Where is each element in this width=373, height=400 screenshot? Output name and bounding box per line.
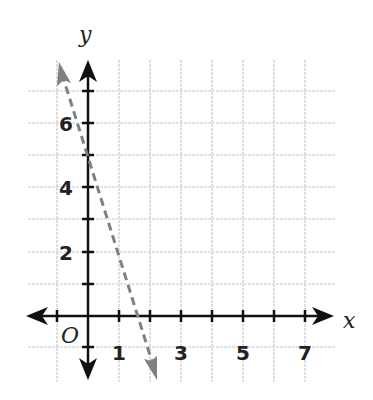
x-tick-label-7: 7 <box>298 341 312 365</box>
x-axis-label: x <box>343 308 356 333</box>
y-axis-label: y <box>78 22 92 47</box>
line-top-arrow-icon <box>57 62 71 86</box>
x-tick-label-5: 5 <box>236 341 250 365</box>
y-tick-label-6: 6 <box>59 112 73 136</box>
x-axis <box>36 310 326 322</box>
y-axis <box>82 68 94 372</box>
origin-label: O <box>61 323 79 348</box>
coordinate-plane: y x O 1 3 5 7 2 4 6 <box>0 0 373 400</box>
y-tick-label-2: 2 <box>59 241 73 265</box>
x-tick-label-3: 3 <box>174 341 188 365</box>
y-tick-label-4: 4 <box>59 176 73 200</box>
x-tick-label-1: 1 <box>112 341 126 365</box>
